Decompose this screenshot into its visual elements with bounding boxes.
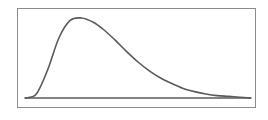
density-plot: [0, 0, 268, 120]
distribution-curve: [25, 18, 251, 98]
